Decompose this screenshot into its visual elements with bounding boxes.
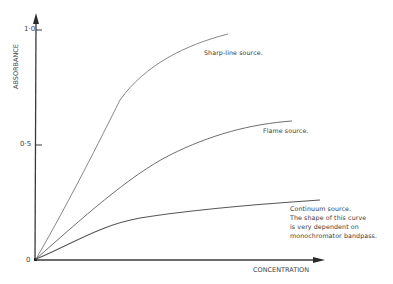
x-axis-arrow-icon xyxy=(313,257,325,263)
y-tick-label-1-0: 1·0 xyxy=(24,25,35,33)
y-axis-label: ABSORBANCE xyxy=(12,44,20,89)
label-sharp-line: Sharp-line source. xyxy=(204,49,263,58)
label-flame: Flame source. xyxy=(263,127,308,136)
curve-sharp-line xyxy=(36,34,228,259)
label-continuum-1: Continuum source. xyxy=(290,205,351,214)
x-axis-label: CONCENTRATION xyxy=(253,266,309,274)
curve-continuum xyxy=(36,200,320,259)
chart-canvas xyxy=(0,0,393,284)
label-continuum-3: is very dependent on xyxy=(290,223,359,232)
y-axis-arrow-icon xyxy=(33,13,39,24)
label-continuum-4: monochromator bandpass. xyxy=(290,232,377,241)
curve-flame xyxy=(36,121,292,259)
y-tick-label-0: 0 xyxy=(26,256,30,264)
y-tick-label-0-5: 0·5 xyxy=(20,140,31,148)
y-axis xyxy=(35,22,36,261)
label-continuum-2: The shape of this curve xyxy=(290,214,366,223)
